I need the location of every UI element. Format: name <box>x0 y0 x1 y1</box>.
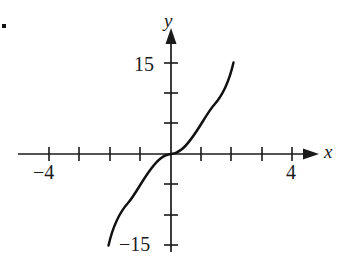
x-tick-label-minus4: −4 <box>33 162 54 182</box>
y-tick-label-minus15: −15 <box>119 234 150 254</box>
graph-figure: 15 −15 −4 4 x y <box>0 0 354 263</box>
y-tick-label-15: 15 <box>134 54 154 74</box>
x-tick-label-4: 4 <box>286 162 296 182</box>
x-axis-label: x <box>324 142 332 161</box>
x-axis-arrowhead <box>303 149 319 160</box>
y-axis-label: y <box>164 11 172 30</box>
coordinate-plane <box>0 0 354 263</box>
